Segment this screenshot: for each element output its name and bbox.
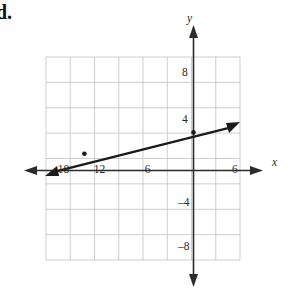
y-tick-label--4: –4 <box>178 196 190 208</box>
x-axis-label: x <box>272 156 277 168</box>
coordinate-plane-figure: –18 –12 –6 6 8 4 –4 –8 x y <box>0 0 293 289</box>
x-axis-arrow-right <box>250 166 263 175</box>
x-tick-label--18: –18 <box>52 163 69 175</box>
y-axis-arrow-up <box>189 25 198 38</box>
graph-canvas <box>0 0 293 289</box>
plotted-line-arrow-right <box>226 122 240 133</box>
x-tick-label-6: 6 <box>232 163 238 175</box>
axes <box>24 25 263 287</box>
data-points <box>82 130 196 156</box>
y-tick-label--8: –8 <box>178 240 190 252</box>
y-axis-label: y <box>187 12 192 24</box>
y-axis-arrow-down <box>189 274 198 287</box>
x-tick-label--12: –12 <box>88 163 105 175</box>
data-point <box>82 152 87 157</box>
x-axis-arrow-left <box>24 166 37 175</box>
x-tick-label--6: –6 <box>139 163 151 175</box>
y-tick-label-4: 4 <box>182 113 188 125</box>
grid <box>46 57 240 260</box>
y-tick-label-8: 8 <box>182 66 188 78</box>
data-point-y-intercept <box>191 130 196 135</box>
